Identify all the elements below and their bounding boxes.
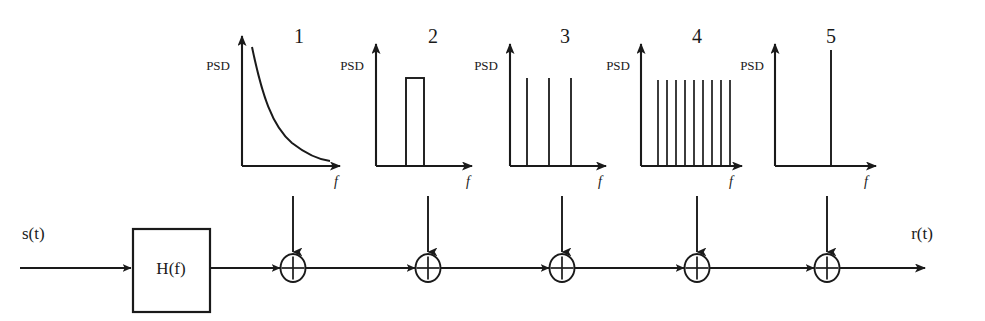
adder-3[interactable] xyxy=(550,254,575,282)
chart-3-ylabel: PSD xyxy=(474,58,498,73)
adder-4[interactable] xyxy=(685,254,710,282)
filter-block-label: H(f) xyxy=(156,259,185,278)
diagram-canvas: PSD f 1 PSD f 2 PSD f 3 PSD f 4 xyxy=(0,0,985,321)
adder-1[interactable] xyxy=(281,254,306,282)
chart-5-ylabel: PSD xyxy=(740,58,764,73)
output-signal-label: r(t) xyxy=(911,224,933,243)
chart-3-number: 3 xyxy=(560,25,570,47)
chart-2-number: 2 xyxy=(428,25,438,47)
chart-1-ylabel: PSD xyxy=(206,58,230,73)
chart-4-ylabel: PSD xyxy=(606,58,630,73)
chart-1-number: 1 xyxy=(294,25,304,47)
chart-4-number: 4 xyxy=(692,25,702,47)
adder-2[interactable] xyxy=(416,254,441,282)
input-signal-label: s(t) xyxy=(22,224,45,243)
chart-2-ylabel: PSD xyxy=(340,58,364,73)
chart-5-number: 5 xyxy=(826,25,836,47)
adder-5[interactable] xyxy=(815,254,840,282)
